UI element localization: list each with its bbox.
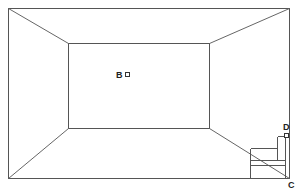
- point-b-marker: [126, 73, 130, 77]
- corner-line-top-right: [210, 9, 290, 44]
- back-wall-rectangle: [69, 44, 210, 129]
- corner-line-bottom-left: [9, 129, 69, 179]
- label-b: B: [116, 70, 123, 80]
- perspective-diagram: B D C: [0, 0, 299, 191]
- corner-line-top-left: [9, 9, 69, 44]
- point-d-marker: [285, 134, 289, 138]
- label-c: C: [288, 180, 295, 190]
- label-d: D: [283, 122, 290, 132]
- outer-wall-rectangle: [9, 9, 290, 179]
